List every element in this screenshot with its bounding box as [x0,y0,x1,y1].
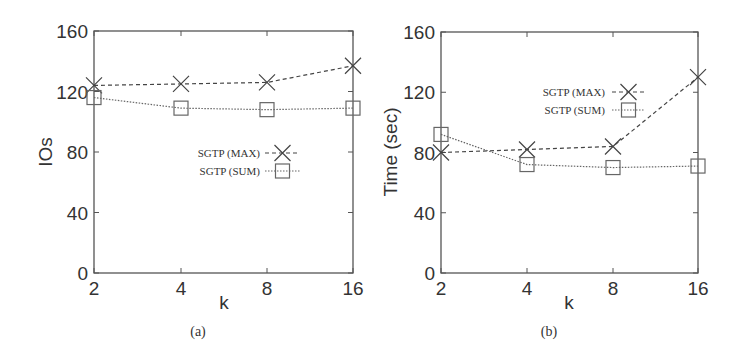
y-tick-label: 0 [77,263,88,284]
x-tick-label: 8 [262,278,273,299]
y-tick-label: 160 [56,21,88,42]
y-axis-label: IOs [35,137,56,167]
x-axis-label: k [564,292,574,313]
x-tick-label: 2 [436,278,447,299]
figure: 0408012016024816IOsk(a)SGTP (MAX)SGTP (S… [0,0,750,359]
x-marker-icon [259,74,275,90]
y-tick-label: 120 [403,82,435,103]
x-tick-label: 4 [176,278,187,299]
series-line [94,66,353,86]
series-max [86,58,361,94]
y-tick-label: 160 [403,22,435,43]
legend-label: SGTP (SUM) [200,165,261,178]
legend-label: SGTP (MAX) [198,147,261,160]
series-line [94,98,353,110]
series-sum [87,91,360,117]
y-tick-label: 80 [414,143,435,164]
legend: SGTP (MAX)SGTP (SUM) [198,145,300,178]
y-tick-label: 0 [424,263,435,284]
panel-caption: (a) [190,324,206,340]
series-sum [434,127,705,174]
legend: SGTP (MAX)SGTP (SUM) [543,84,645,117]
y-axis-label: Time (sec) [380,107,401,196]
x-axis-label: k [219,292,229,313]
x-tick-label: 2 [89,278,100,299]
legend-label: SGTP (SUM) [545,104,606,117]
panel-caption: (b) [541,324,558,340]
y-tick-label: 40 [414,203,435,224]
x-tick-label: 16 [687,278,708,299]
chart-panel-a: 0408012016024816IOsk(a)SGTP (MAX)SGTP (S… [35,21,364,340]
chart-panel-b: 0408012016024816Time (sec)k(b)SGTP (MAX)… [380,22,709,340]
x-tick-label: 4 [522,278,533,299]
y-tick-label: 80 [67,142,88,163]
y-tick-label: 120 [56,82,88,103]
x-tick-label: 16 [342,278,363,299]
legend-label: SGTP (MAX) [543,86,606,99]
plot-frame [441,32,698,273]
x-tick-label: 8 [608,278,619,299]
y-tick-label: 40 [67,203,88,224]
x-marker-icon [605,138,621,154]
